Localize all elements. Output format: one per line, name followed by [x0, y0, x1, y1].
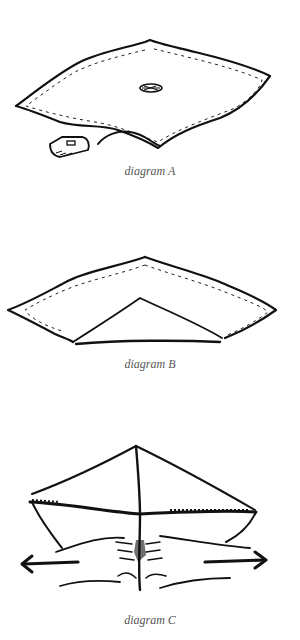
diagram-b — [0, 240, 300, 360]
caption-diagram-b: diagram B — [0, 357, 300, 372]
left-arrow-icon — [22, 556, 78, 572]
diagram-b-illustration — [0, 240, 300, 360]
diagram-c-illustration — [0, 430, 300, 610]
center-button-icon — [140, 84, 162, 92]
pad-icon — [50, 137, 89, 157]
right-arrow-icon — [205, 552, 266, 568]
caption-diagram-a: diagram A — [0, 164, 300, 179]
diagram-c — [0, 430, 300, 610]
caption-diagram-c: diagram C — [0, 613, 300, 628]
